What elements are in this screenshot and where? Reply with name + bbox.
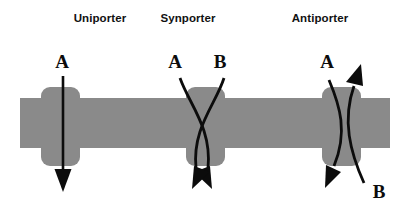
- panel-title-uniporter: Uniporter: [74, 12, 127, 24]
- panel-title-synporter: Synporter: [160, 12, 216, 24]
- panel-title-antiporter: Antiporter: [292, 12, 349, 24]
- antiporter-arrowhead-b-up: [346, 64, 363, 86]
- uniporter-arrowhead-a-down: [55, 169, 72, 192]
- solute-label-antiporter-b: B: [373, 181, 386, 202]
- solute-label-uniporter-a: A: [55, 51, 69, 72]
- transport-protein-diagram: Uniporter Synporter Antiporter A A B: [0, 0, 408, 213]
- solute-label-synporter-a: A: [168, 51, 182, 72]
- antiporter-arrowhead-a-down: [325, 165, 341, 188]
- synporter-protein-block: [186, 87, 225, 166]
- uniporter-protein-block: [41, 87, 80, 166]
- solute-label-antiporter-a: A: [320, 51, 334, 72]
- solute-label-synporter-b: B: [214, 51, 227, 72]
- diagram-canvas: Uniporter Synporter Antiporter A A B: [0, 0, 408, 213]
